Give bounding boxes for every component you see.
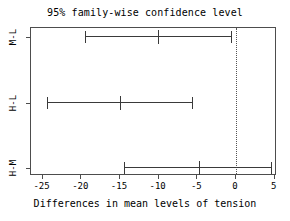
confidence-interval-cap-lower [124,162,125,174]
y-tick-mark [26,103,30,104]
x-axis-label: Differences in mean levels of tension [0,198,290,210]
x-tick-mark [42,175,43,179]
y-tick-label-m-l: M-L [0,30,26,44]
y-tick-text: H-M [6,155,20,181]
x-tick-label: -5 [179,181,213,192]
confidence-interval-center [120,96,121,110]
y-tick-label-h-l: H-L [0,96,26,110]
x-tick-label: -10 [141,181,175,192]
x-tick-mark [119,175,120,179]
x-tick-label: 0 [218,181,252,192]
confidence-interval-cap-upper [192,97,193,109]
confidence-interval-row [0,161,290,175]
confidence-interval-center [158,30,159,44]
y-tick-label-h-m: H-M [0,161,26,175]
x-tick-label: -25 [25,181,59,192]
x-tick-mark [158,175,159,179]
confidence-interval-cap-upper [231,31,232,43]
x-tick-label: -20 [63,181,97,192]
confidence-interval-cap-lower [85,31,86,43]
y-tick-mark [26,37,30,38]
x-tick-mark [274,175,275,179]
x-tick-mark [80,175,81,179]
x-tick-mark [235,175,236,179]
confidence-interval-row [0,30,290,44]
x-tick-label: 5 [257,181,290,192]
y-tick-mark [26,168,30,169]
confidence-interval-row [0,96,290,110]
confidence-interval-center [199,161,200,175]
confidence-interval-bar [124,167,272,168]
x-tick-label: -15 [102,181,136,192]
chart-title: 95% family-wise confidence level [0,7,290,19]
y-tick-text: M-L [6,24,20,50]
y-tick-text: H-L [6,90,20,116]
tukey-hsd-plot: 95% family-wise confidence level Differe… [0,0,290,221]
confidence-interval-cap-lower [47,97,48,109]
x-tick-mark [196,175,197,179]
confidence-interval-cap-upper [271,162,272,174]
